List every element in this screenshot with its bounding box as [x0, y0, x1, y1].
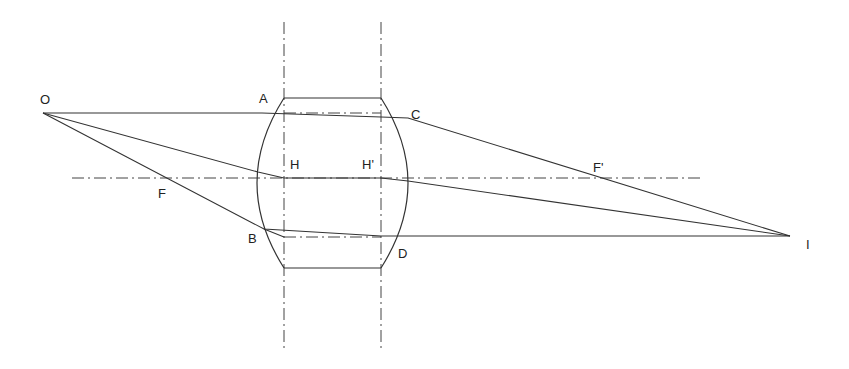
- label-b: B: [248, 231, 257, 246]
- lens-front-surface: [257, 98, 284, 268]
- thick-lens-diagram: O A C H H' F' F B D I: [0, 0, 849, 369]
- ray-focal: [43, 113, 790, 236]
- lens-back-surface: [381, 98, 408, 268]
- label-h-prime: H': [362, 157, 374, 172]
- lens-outline: [257, 98, 408, 268]
- label-f-prime: F': [593, 160, 603, 175]
- label-c: C: [411, 107, 420, 122]
- label-i: I: [806, 237, 810, 252]
- ray-parallel: [43, 113, 790, 236]
- label-o: O: [40, 92, 50, 107]
- ray-chief: [43, 113, 790, 236]
- label-d: D: [398, 246, 407, 261]
- label-a: A: [259, 91, 268, 106]
- label-h: H: [290, 157, 299, 172]
- label-f: F: [158, 186, 166, 201]
